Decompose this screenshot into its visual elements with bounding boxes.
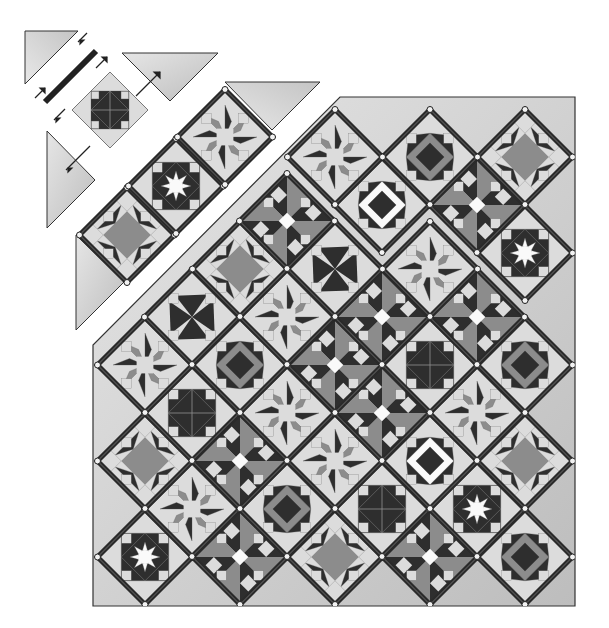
cornerstone <box>570 362 576 368</box>
cornerstone <box>237 314 243 320</box>
cornerstone <box>332 202 338 208</box>
cornerstone <box>380 266 386 272</box>
cornerstone <box>474 458 480 464</box>
cornerstone <box>190 266 196 272</box>
cornerstone <box>175 134 181 140</box>
cornerstone <box>237 506 243 512</box>
quilt-assembly-diagram <box>0 0 609 628</box>
cornerstone <box>379 458 385 464</box>
cornerstone <box>285 154 291 160</box>
cornerstone <box>284 554 290 560</box>
cornerstone <box>427 314 433 320</box>
cornerstone <box>124 280 130 286</box>
cornerstone <box>95 458 101 464</box>
cornerstone <box>284 362 290 368</box>
cornerstone <box>284 266 290 272</box>
cornerstone <box>332 410 338 416</box>
cornerstone <box>475 266 481 272</box>
cornerstone <box>427 506 433 512</box>
cornerstone <box>475 154 481 160</box>
cornerstone <box>332 107 338 113</box>
cornerstone <box>332 506 338 512</box>
cornerstone <box>522 410 528 416</box>
quilt-block-star_dark <box>72 72 148 148</box>
exploded-block <box>72 72 148 148</box>
cornerstone <box>142 314 148 320</box>
cornerstone <box>474 250 480 256</box>
cornerstone <box>237 410 243 416</box>
cornerstone <box>570 554 576 560</box>
cornerstone <box>142 410 148 416</box>
cornerstone <box>474 554 480 560</box>
cornerstone <box>379 362 385 368</box>
cornerstone <box>522 506 528 512</box>
cornerstone <box>237 218 243 224</box>
cornerstone <box>522 314 528 320</box>
cornerstone <box>95 362 101 368</box>
cornerstone <box>189 554 195 560</box>
cornerstone <box>189 458 195 464</box>
cornerstone <box>284 171 290 177</box>
cornerstone <box>427 410 433 416</box>
cornerstone <box>427 107 433 113</box>
cornerstone <box>379 554 385 560</box>
cornerstone <box>522 298 528 304</box>
cornerstone <box>522 202 528 208</box>
cornerstone <box>173 231 179 237</box>
cornerstone <box>570 250 576 256</box>
cornerstone <box>222 182 228 188</box>
cornerstone <box>427 219 433 225</box>
cornerstone <box>380 154 386 160</box>
cornerstone <box>126 183 132 189</box>
cornerstone <box>474 362 480 368</box>
cornerstone <box>142 506 148 512</box>
cornerstone <box>270 134 276 140</box>
cornerstone <box>77 232 83 238</box>
cornerstone <box>522 107 528 113</box>
cornerstone <box>95 554 101 560</box>
cornerstone <box>284 458 290 464</box>
cornerstone <box>570 154 576 160</box>
cornerstone <box>427 202 433 208</box>
cornerstone <box>189 362 195 368</box>
cornerstone <box>332 218 338 224</box>
cornerstone <box>332 314 338 320</box>
corner-triangle-left <box>47 131 95 228</box>
cornerstone <box>222 87 228 93</box>
corner-triangle-top-right <box>122 53 218 101</box>
cornerstone <box>379 250 385 256</box>
cornerstone <box>570 458 576 464</box>
